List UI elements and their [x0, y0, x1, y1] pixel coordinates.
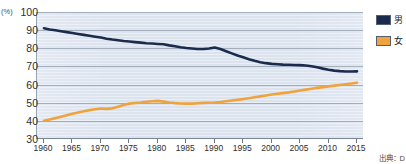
x-axis-tick-1965: 1965	[56, 144, 86, 153]
y-axis-tick-60: 60	[8, 80, 38, 90]
x-axis-tick-2015: 2015	[341, 144, 371, 153]
top-caption	[30, 0, 260, 5]
chart-plot-area	[36, 12, 363, 139]
y-axis-tick-100: 100	[8, 7, 38, 17]
x-axis-tick-1970: 1970	[85, 144, 115, 153]
x-axis-tick-2005: 2005	[284, 144, 314, 153]
y-axis-tick-70: 70	[8, 61, 38, 71]
y-axis-tick-50: 50	[8, 98, 38, 108]
series-line-女	[44, 83, 357, 121]
series-line-男	[44, 28, 357, 71]
legend-swatch-女	[376, 36, 391, 46]
source-note: 出典：D	[379, 152, 405, 163]
legend-item-男: 男	[376, 14, 406, 25]
legend-label-男: 男	[394, 15, 403, 25]
chart-lines	[37, 12, 364, 139]
x-axis-tick-1990: 1990	[199, 144, 229, 153]
y-axis-tick-40: 40	[8, 116, 38, 126]
x-axis-tick-2010: 2010	[313, 144, 343, 153]
legend-item-女: 女	[376, 35, 406, 46]
y-axis-tick-80: 80	[8, 43, 38, 53]
y-axis-tick-90: 90	[8, 25, 38, 35]
x-axis-tick-1985: 1985	[170, 144, 200, 153]
legend-label-女: 女	[394, 36, 403, 46]
x-axis-tick-2000: 2000	[256, 144, 286, 153]
x-axis-tick-1995: 1995	[227, 144, 257, 153]
legend-swatch-男	[376, 15, 391, 25]
x-axis-tick-1960: 1960	[28, 144, 58, 153]
x-axis-tick-1975: 1975	[113, 144, 143, 153]
chart-legend: 男女	[376, 14, 406, 56]
x-axis-tick-1980: 1980	[142, 144, 172, 153]
